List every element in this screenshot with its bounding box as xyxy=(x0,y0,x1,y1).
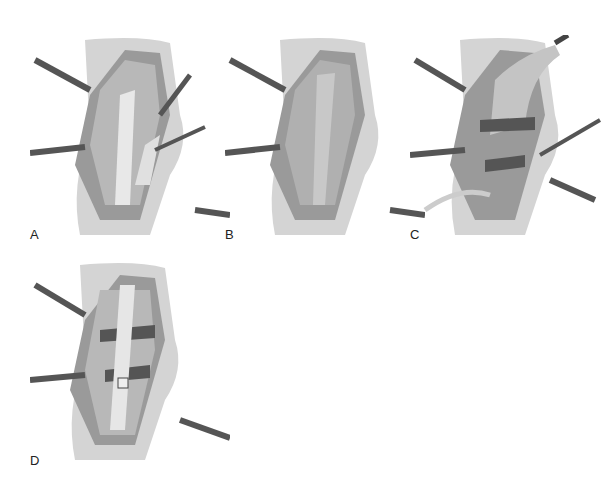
surgical-illustration-a xyxy=(30,35,230,235)
panel-c: C xyxy=(410,35,610,265)
panel-label: D xyxy=(30,453,39,468)
panel-d: D xyxy=(30,260,230,490)
panel-b: B xyxy=(225,35,425,265)
surgical-illustration-b xyxy=(225,35,425,235)
panel-label: B xyxy=(225,227,234,242)
panel-a: A xyxy=(30,35,230,265)
surgical-illustration-d xyxy=(30,260,230,460)
panel-label: C xyxy=(410,227,419,242)
panel-label: A xyxy=(30,227,39,242)
surgical-illustration-c xyxy=(410,35,610,235)
